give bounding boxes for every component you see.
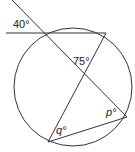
circle xyxy=(14,28,132,146)
geometry-diagram: 40° 75° p° q° xyxy=(0,0,135,152)
angle-q-label: q° xyxy=(56,124,67,136)
angle-p-label: p° xyxy=(105,106,117,118)
angle-75-label: 75° xyxy=(73,55,90,67)
angle-40-label: 40° xyxy=(13,18,30,30)
